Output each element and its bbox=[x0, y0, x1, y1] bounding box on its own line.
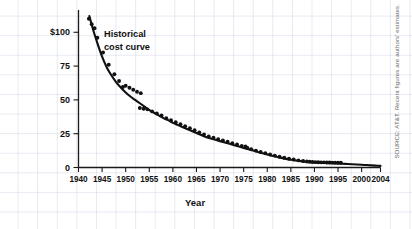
data-point bbox=[254, 149, 258, 153]
x-tick-label: 1985 bbox=[282, 175, 301, 184]
data-point bbox=[164, 116, 168, 120]
y-tick-label: 0 bbox=[65, 163, 70, 173]
data-point bbox=[273, 154, 277, 158]
data-point bbox=[174, 120, 178, 124]
y-tick-label: 50 bbox=[60, 95, 70, 105]
data-point bbox=[95, 36, 99, 40]
annotation-line2: cost curve bbox=[104, 41, 150, 54]
y-tick-labels: 0255075$100 bbox=[50, 27, 70, 172]
x-tick-label: 1965 bbox=[187, 175, 206, 184]
y-tick-label: 25 bbox=[60, 129, 70, 139]
annotation-line1: Historical bbox=[104, 28, 150, 41]
data-point bbox=[230, 141, 234, 145]
data-point bbox=[193, 128, 197, 132]
data-point bbox=[226, 140, 230, 144]
data-point bbox=[155, 111, 159, 115]
data-point bbox=[202, 132, 206, 136]
data-point bbox=[117, 79, 121, 83]
source-note: SOURCE: AT&T. Recent figures are authors… bbox=[393, 0, 400, 229]
data-point bbox=[221, 139, 225, 143]
data-point bbox=[188, 126, 192, 130]
data-point bbox=[93, 26, 97, 30]
x-tick-label: 1940 bbox=[69, 175, 88, 184]
data-point bbox=[124, 84, 128, 88]
historical-cost-curve-annotation: Historical cost curve bbox=[104, 28, 150, 53]
data-point bbox=[107, 63, 111, 67]
data-point bbox=[87, 17, 91, 21]
data-point bbox=[160, 113, 164, 117]
y-tick-marks bbox=[74, 32, 79, 167]
data-point bbox=[207, 134, 211, 138]
data-point bbox=[212, 136, 216, 140]
x-tick-label: 1990 bbox=[305, 175, 324, 184]
data-point bbox=[339, 161, 343, 165]
x-tick-label: 1975 bbox=[235, 175, 254, 184]
data-point bbox=[131, 88, 135, 92]
data-point bbox=[240, 144, 244, 148]
data-point bbox=[183, 124, 187, 128]
x-tick-label: 1960 bbox=[164, 175, 183, 184]
data-point bbox=[278, 155, 282, 159]
x-tick-marks bbox=[79, 168, 381, 173]
data-point bbox=[169, 118, 173, 122]
x-tick-label: 2004 bbox=[371, 175, 390, 184]
y-tick-label: $100 bbox=[50, 27, 70, 37]
data-point bbox=[90, 22, 94, 26]
data-point bbox=[139, 91, 143, 95]
data-point bbox=[259, 150, 263, 154]
data-point bbox=[301, 159, 305, 163]
data-point bbox=[292, 158, 296, 162]
data-point bbox=[150, 109, 154, 113]
data-point bbox=[296, 158, 300, 162]
x-tick-label: 1970 bbox=[211, 175, 230, 184]
data-point bbox=[263, 151, 267, 155]
data-point bbox=[268, 153, 272, 157]
data-point bbox=[249, 147, 253, 151]
data-point bbox=[282, 156, 286, 160]
y-tick-label: 75 bbox=[60, 61, 70, 71]
x-tick-label: 2000 bbox=[353, 175, 372, 184]
historical-cost-curve-figure: 1940194519501955196019651970197519801985… bbox=[0, 0, 412, 229]
x-tick-labels: 1940194519501955196019651970197519801985… bbox=[69, 175, 390, 184]
data-point bbox=[128, 86, 132, 90]
data-point bbox=[138, 106, 142, 110]
data-point bbox=[112, 72, 116, 76]
data-point bbox=[178, 122, 182, 126]
data-point bbox=[145, 107, 149, 111]
data-point bbox=[245, 146, 249, 150]
x-tick-label: 1995 bbox=[329, 175, 348, 184]
x-tick-label: 1955 bbox=[140, 175, 159, 184]
data-point bbox=[197, 130, 201, 134]
data-point bbox=[216, 137, 220, 141]
x-tick-label: 1980 bbox=[258, 175, 277, 184]
data-point bbox=[287, 157, 291, 161]
data-point bbox=[142, 107, 146, 111]
x-tick-label: 1950 bbox=[117, 175, 136, 184]
chart-canvas: 1940194519501955196019651970197519801985… bbox=[0, 0, 412, 229]
x-tick-label: 1945 bbox=[93, 175, 112, 184]
x-axis-label: Year bbox=[185, 197, 205, 208]
data-point bbox=[135, 90, 139, 94]
data-point bbox=[235, 143, 239, 147]
